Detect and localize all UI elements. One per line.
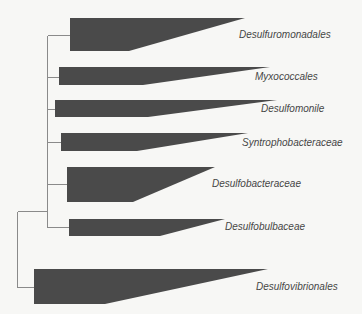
- clade-wedges: [34, 18, 277, 304]
- label-desulfovibrionales: Desulfovibrionales: [256, 281, 338, 293]
- wedge-desulfovibrionales: [34, 269, 268, 304]
- label-desulfobulbaceae: Desulfobulbaceae: [225, 221, 305, 233]
- label-desulfuromonadales: Desulfuromonadales: [239, 29, 331, 41]
- label-syntrophobacteraceae: Syntrophobacteraceae: [242, 137, 343, 149]
- wedge-syntrophobacteraceae: [61, 133, 248, 151]
- label-myxococcales: Myxococcales: [255, 71, 318, 83]
- wedge-myxococcales: [59, 67, 270, 85]
- wedge-desulfomonile: [55, 100, 277, 117]
- label-desulfomonile: Desulfomonile: [261, 103, 324, 115]
- wedge-desulfuromonadales: [70, 18, 245, 51]
- phylogenetic-tree: [0, 0, 362, 314]
- label-desulfobacteraceae: Desulfobacteraceae: [212, 178, 301, 190]
- wedge-desulfobacteraceae: [67, 167, 215, 202]
- wedge-desulfobulbaceae: [69, 219, 225, 236]
